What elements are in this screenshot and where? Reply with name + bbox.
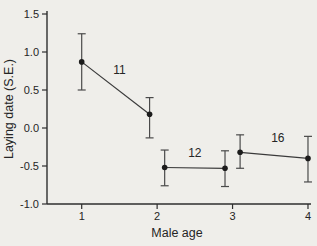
y-tick-label: 0.0 xyxy=(24,122,39,134)
y-tick-label: 1.5 xyxy=(24,8,39,20)
laying-date-vs-male-age-chart: 1.51.00.50.0-0.5-1.01234111216 Laying da… xyxy=(0,0,317,246)
data-point xyxy=(305,156,311,162)
x-tick-label: 2 xyxy=(154,210,160,222)
x-tick-label: 4 xyxy=(305,210,311,222)
sample-size-label: 11 xyxy=(113,63,126,77)
data-point xyxy=(237,150,243,156)
x-tick-label: 3 xyxy=(229,210,235,222)
sample-size-label: 16 xyxy=(271,131,285,145)
y-tick-label: -1.0 xyxy=(20,198,39,210)
data-point xyxy=(79,59,85,65)
segment-line xyxy=(165,168,225,169)
data-point xyxy=(147,112,153,118)
x-axis-label: Male age xyxy=(151,226,202,240)
sample-size-label: 12 xyxy=(188,146,202,160)
y-tick-label: -0.5 xyxy=(20,160,39,172)
y-tick-label: 1.0 xyxy=(24,46,39,58)
x-tick-label: 1 xyxy=(79,210,85,222)
data-point xyxy=(222,165,228,171)
data-point xyxy=(162,165,168,171)
y-tick-label: 0.5 xyxy=(24,84,39,96)
y-axis-label: Laying date (S.E.) xyxy=(2,59,16,159)
chart-figure: 1.51.00.50.0-0.5-1.01234111216 Laying da… xyxy=(0,0,317,246)
